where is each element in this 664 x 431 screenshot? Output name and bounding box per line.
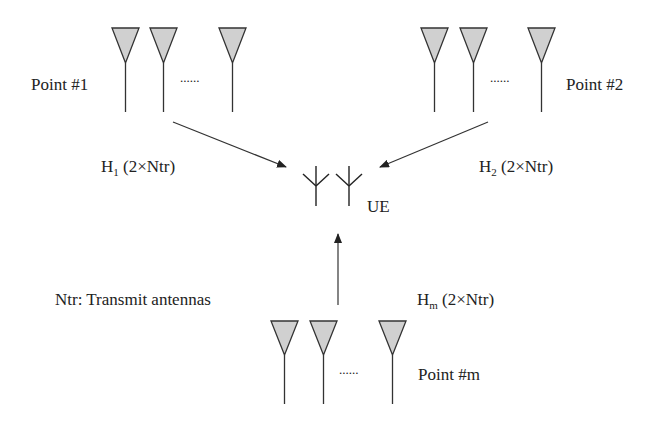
antenna-icon [421,28,448,112]
ue-label: UE [367,197,390,217]
channel-arrow-h1 [173,122,286,167]
channel-hm-label: Hm (2×Ntr) [417,290,494,311]
channel-h2-label: H2 (2×Ntr) [479,157,553,178]
antenna-icon [528,28,555,112]
point-1-label: Point #1 [31,75,88,95]
point-m-label: Point #m [418,365,480,385]
point-m-dots: ...... [339,362,359,378]
antenna-icon [150,28,177,112]
antenna-icon [310,321,337,404]
point-2-label: Point #2 [566,75,623,95]
antenna-icon [379,321,406,404]
channel-h1-label: H1 (2×Ntr) [101,157,175,178]
legend-ntr: Ntr: Transmit antennas [55,290,211,310]
diagram-canvas [0,0,664,431]
point-1-antenna-array [112,28,246,112]
channel-arrow-h2 [380,122,488,167]
antenna-icon [271,321,298,404]
ue-antenna-icon [303,166,362,206]
antenna-icon [112,28,139,112]
antenna-icon [460,28,487,112]
point-1-dots: ...... [180,70,200,86]
point-2-antenna-array [421,28,555,112]
point-2-dots: ...... [490,70,510,86]
antenna-icon [219,28,246,112]
